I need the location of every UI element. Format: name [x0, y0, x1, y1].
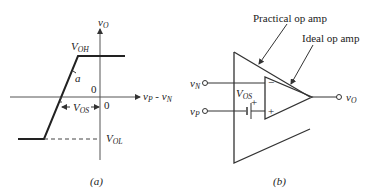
vos-label: VOS — [73, 102, 89, 115]
origin-label-lower: 0 — [104, 100, 110, 111]
voh-label: VOH — [71, 41, 89, 54]
noninverting-input-sign: + — [268, 106, 274, 117]
practical-pointer — [259, 24, 287, 64]
vo-label: vO — [346, 92, 356, 105]
caption-a: (a) — [90, 176, 103, 187]
vo-terminal — [337, 95, 342, 100]
origin-label-upper: 0 — [91, 84, 97, 95]
vn-label: vN — [190, 78, 200, 91]
practical-opamp-label: Practical op amp — [253, 13, 327, 24]
vp-label: vP — [190, 106, 200, 119]
x-axis-label: vP - vN — [143, 91, 172, 104]
inverting-input-sign: − — [268, 77, 274, 88]
ideal-opamp-label: Ideal op amp — [302, 33, 359, 44]
vn-terminal — [203, 81, 208, 86]
vos-source-label: VOS — [236, 88, 252, 101]
slope-label: a — [75, 73, 81, 84]
y-axis-label: vO — [98, 17, 108, 30]
ideal-pointer — [291, 45, 313, 84]
vol-label: VOL — [106, 133, 123, 146]
vp-terminal — [203, 109, 208, 114]
panel-a-graph — [0, 0, 366, 194]
battery-plus-sign: + — [251, 97, 257, 108]
caption-b: (b) — [273, 176, 286, 187]
